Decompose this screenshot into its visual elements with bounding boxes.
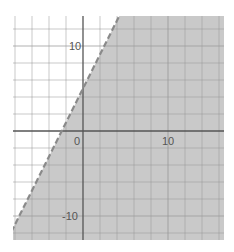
origin-label: 0 — [74, 135, 80, 147]
inequality-graph: 0 10 10 -10 — [0, 0, 234, 252]
x-tick-10-label: 10 — [162, 135, 174, 147]
y-tick-neg10-label: -10 — [62, 210, 78, 222]
y-tick-10-label: 10 — [69, 40, 81, 52]
